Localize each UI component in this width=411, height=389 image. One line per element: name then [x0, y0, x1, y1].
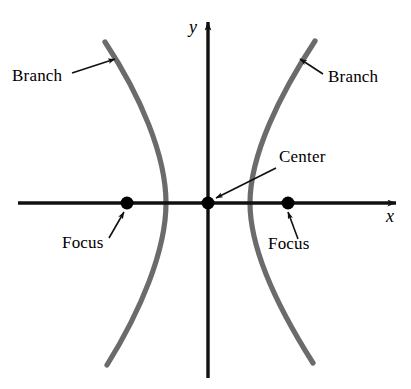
y-axis-label: y [187, 17, 197, 37]
x-axis-label: x [385, 206, 394, 226]
hyperbola-figure: x y Branch Branch Center Focus Focus [0, 0, 411, 389]
left-focus-point [121, 197, 134, 210]
branch-right-label: Branch [328, 67, 379, 86]
center-point [202, 197, 215, 210]
branch-left-label: Branch [12, 66, 63, 85]
figure-background [0, 0, 411, 389]
center-label: Center [279, 147, 326, 166]
focus-right-label: Focus [268, 234, 310, 253]
right-focus-point [282, 197, 295, 210]
focus-left-label: Focus [62, 233, 104, 252]
